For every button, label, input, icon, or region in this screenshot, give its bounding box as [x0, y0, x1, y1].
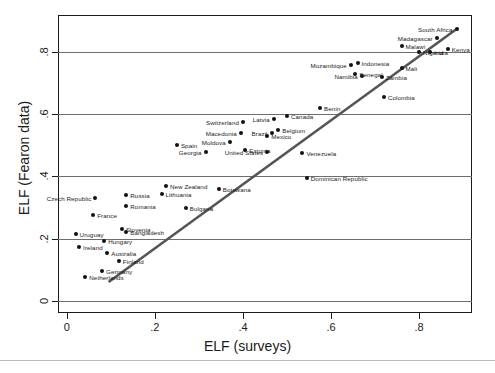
- point-label: Botswana: [223, 185, 251, 192]
- point-label: Canada: [291, 112, 313, 119]
- page-divider: [0, 360, 495, 361]
- point-label: Mexico: [271, 133, 291, 140]
- x-tick-.6: [331, 313, 332, 319]
- data-point[interactable]: [217, 187, 221, 191]
- data-point[interactable]: [400, 44, 404, 48]
- y-tick-.6: [52, 114, 58, 115]
- y-tick-.8: [52, 52, 58, 53]
- point-label: New Zealand: [170, 182, 208, 189]
- x-tick-0: [67, 313, 68, 319]
- data-point[interactable]: [356, 61, 360, 65]
- data-point[interactable]: [160, 192, 164, 196]
- x-tick-.8: [419, 313, 420, 319]
- point-label: Georgia: [179, 148, 202, 155]
- point-label: Mali: [406, 64, 418, 71]
- point-label: Colombia: [388, 94, 415, 101]
- y-tick-label: .2: [38, 231, 50, 247]
- x-tick-.4: [243, 313, 244, 319]
- x-axis-title: ELF (surveys): [0, 338, 495, 354]
- x-tick-.2: [155, 313, 156, 319]
- point-label: Bangladesh: [130, 228, 164, 235]
- point-label: Switzerland: [206, 119, 239, 126]
- point-label: South Africa: [418, 26, 453, 33]
- point-label: Macedonia: [206, 130, 237, 137]
- data-point[interactable]: [360, 74, 364, 78]
- point-label: Latvia: [253, 116, 270, 123]
- data-point[interactable]: [349, 63, 353, 67]
- y-tick-.2: [52, 239, 58, 240]
- y-tick-label: .4: [38, 168, 50, 184]
- point-label: Australia: [111, 250, 136, 257]
- data-point[interactable]: [272, 117, 276, 121]
- point-label: Venezuela: [306, 150, 336, 157]
- point-label: Moldova: [202, 139, 226, 146]
- x-tick-label: .8: [415, 321, 424, 333]
- data-point[interactable]: [204, 150, 208, 154]
- point-label: Hungary: [108, 238, 132, 245]
- data-point[interactable]: [285, 114, 289, 118]
- x-tick-label: .6: [327, 321, 336, 333]
- data-point[interactable]: [305, 176, 309, 180]
- point-label: United States: [225, 149, 263, 156]
- scatter-plot-figure: South AfricaMadagascarMalawiKenyaNigeria…: [0, 0, 495, 373]
- point-label: Uruguay: [80, 230, 104, 237]
- data-point[interactable]: [400, 66, 404, 70]
- data-point[interactable]: [164, 184, 168, 188]
- data-point[interactable]: [455, 27, 459, 31]
- point-label: Zambia: [386, 74, 407, 81]
- point-label: Finland: [123, 257, 144, 264]
- point-label: India: [434, 49, 448, 56]
- y-tick-label: 0: [38, 293, 50, 309]
- point-label: Dominican Republic: [311, 175, 368, 182]
- point-label: Russia: [130, 192, 150, 199]
- y-tick-.4: [52, 176, 58, 177]
- data-point[interactable]: [184, 206, 188, 210]
- data-point[interactable]: [74, 232, 78, 236]
- data-point[interactable]: [239, 131, 243, 135]
- y-tick-label: .8: [38, 44, 50, 60]
- y-tick-label: .6: [38, 106, 50, 122]
- point-label: France: [97, 212, 117, 219]
- point-label: Namibia: [334, 72, 357, 79]
- y-tick-0: [52, 301, 58, 302]
- point-label: Netherlands: [89, 274, 123, 281]
- point-label: Madagascar: [398, 35, 433, 42]
- point-label: Czech Republic: [47, 195, 92, 202]
- data-point[interactable]: [380, 75, 384, 79]
- point-label: Mozambique: [310, 61, 346, 68]
- point-label: Ireland: [83, 244, 103, 251]
- plot-area: South AfricaMadagascarMalawiKenyaNigeria…: [58, 15, 472, 313]
- data-point[interactable]: [117, 259, 121, 263]
- point-label: Indonesia: [362, 60, 390, 67]
- y-axis-title: ELF (Fearon data): [16, 48, 32, 268]
- x-tick-label: 0: [64, 321, 70, 333]
- point-label: Kenya: [452, 46, 470, 53]
- point-label: Benin: [324, 105, 340, 112]
- point-label: Romania: [130, 202, 155, 209]
- x-tick-label: .2: [150, 321, 159, 333]
- x-tick-label: .4: [238, 321, 247, 333]
- point-label: Lithuania: [166, 190, 192, 197]
- point-label: Bulgaria: [190, 204, 214, 211]
